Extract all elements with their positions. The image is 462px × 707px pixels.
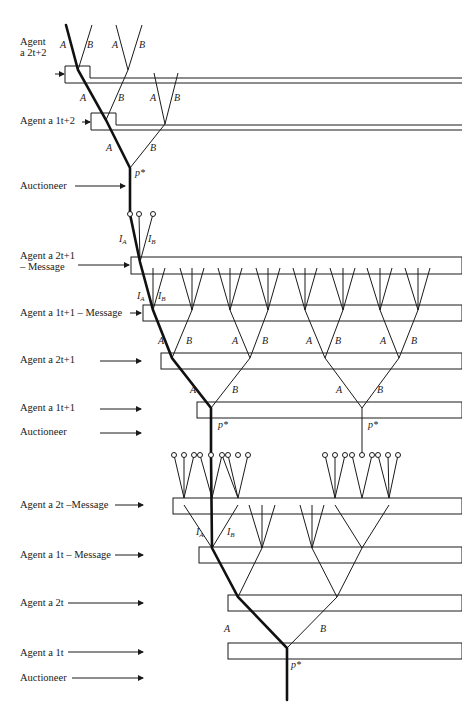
info-set-a1t2 [91, 113, 462, 130]
svg-text:B: B [262, 335, 268, 346]
svg-text:IB: IB [226, 526, 235, 539]
label-agent-a2t1: Agent a 2t+1 [20, 355, 75, 366]
info-set-a1t-msg [199, 547, 462, 563]
label-agent-a1t: Agent a 1t [20, 648, 64, 659]
svg-text:A: A [231, 335, 239, 346]
svg-text:B: B [139, 39, 145, 50]
svg-text:A: A [223, 623, 231, 634]
svg-text:p*: p* [217, 419, 228, 430]
svg-text:IB: IB [147, 233, 156, 246]
svg-text:p*: p* [290, 659, 301, 670]
svg-text:p*: p* [134, 167, 145, 178]
svg-text:IA: IA [136, 290, 145, 303]
svg-text:A: A [189, 384, 197, 395]
equilibrium-path [66, 25, 287, 700]
svg-text:A: A [335, 384, 343, 395]
label-text: Agent a 2t+1 [20, 251, 75, 262]
svg-text:IA: IA [118, 233, 127, 246]
svg-text:A: A [111, 39, 119, 50]
info-set-a2t-msg [173, 498, 462, 514]
label-subtext: – Message [20, 262, 75, 273]
label-auctioneer-2: Auctioneer [20, 427, 67, 438]
label-agent-a2t-msg: Agent a 2t –Message [20, 500, 108, 511]
label-auctioneer-1: Auctioneer [20, 181, 67, 192]
svg-text:B: B [118, 92, 124, 103]
svg-text:B: B [320, 623, 326, 634]
svg-text:A: A [105, 142, 113, 153]
info-set-a2t [228, 595, 462, 611]
label-text: Agent [20, 37, 47, 48]
label-agent-a1t1: Agent a 1t+1 [20, 403, 75, 414]
svg-text:A: A [157, 335, 165, 346]
label-agent-a2t1-msg: Agent a 2t+1 – Message [20, 251, 75, 272]
svg-text:B: B [377, 384, 383, 395]
svg-text:B: B [186, 335, 192, 346]
svg-text:B: B [174, 92, 180, 103]
label-subtext: a 2t+2 [20, 48, 47, 59]
svg-text:A: A [149, 92, 157, 103]
svg-text:IA: IA [195, 526, 204, 539]
info-set-a1t1 [197, 402, 462, 418]
label-auctioneer-3: Auctioneer [20, 673, 67, 684]
label-agent-a1t1-msg: Agent a 1t+1 – Message [20, 308, 122, 319]
svg-text:IB: IB [157, 290, 166, 303]
svg-text:A: A [79, 92, 87, 103]
svg-text:B: B [411, 335, 417, 346]
svg-text:p*: p* [367, 419, 378, 430]
svg-text:A: A [305, 335, 313, 346]
label-agent-a1t-msg: Agent a 1t – Message [20, 550, 111, 561]
label-agent-a2t: Agent a 2t [20, 598, 64, 609]
label-agent-a2t2: Agent a 2t+2 [20, 37, 47, 58]
svg-text:A: A [379, 335, 387, 346]
svg-text:B: B [335, 335, 341, 346]
svg-text:B: B [232, 384, 238, 395]
label-agent-a1t2: Agent a 1t+2 [20, 116, 75, 127]
info-set-a2t1 [161, 353, 462, 369]
svg-text:B: B [87, 39, 93, 50]
message-fans-t [174, 455, 398, 548]
info-set-a1t [228, 643, 462, 659]
svg-text:A: A [59, 39, 67, 50]
info-set-a2t2 [65, 66, 462, 83]
svg-text:B: B [150, 142, 156, 153]
